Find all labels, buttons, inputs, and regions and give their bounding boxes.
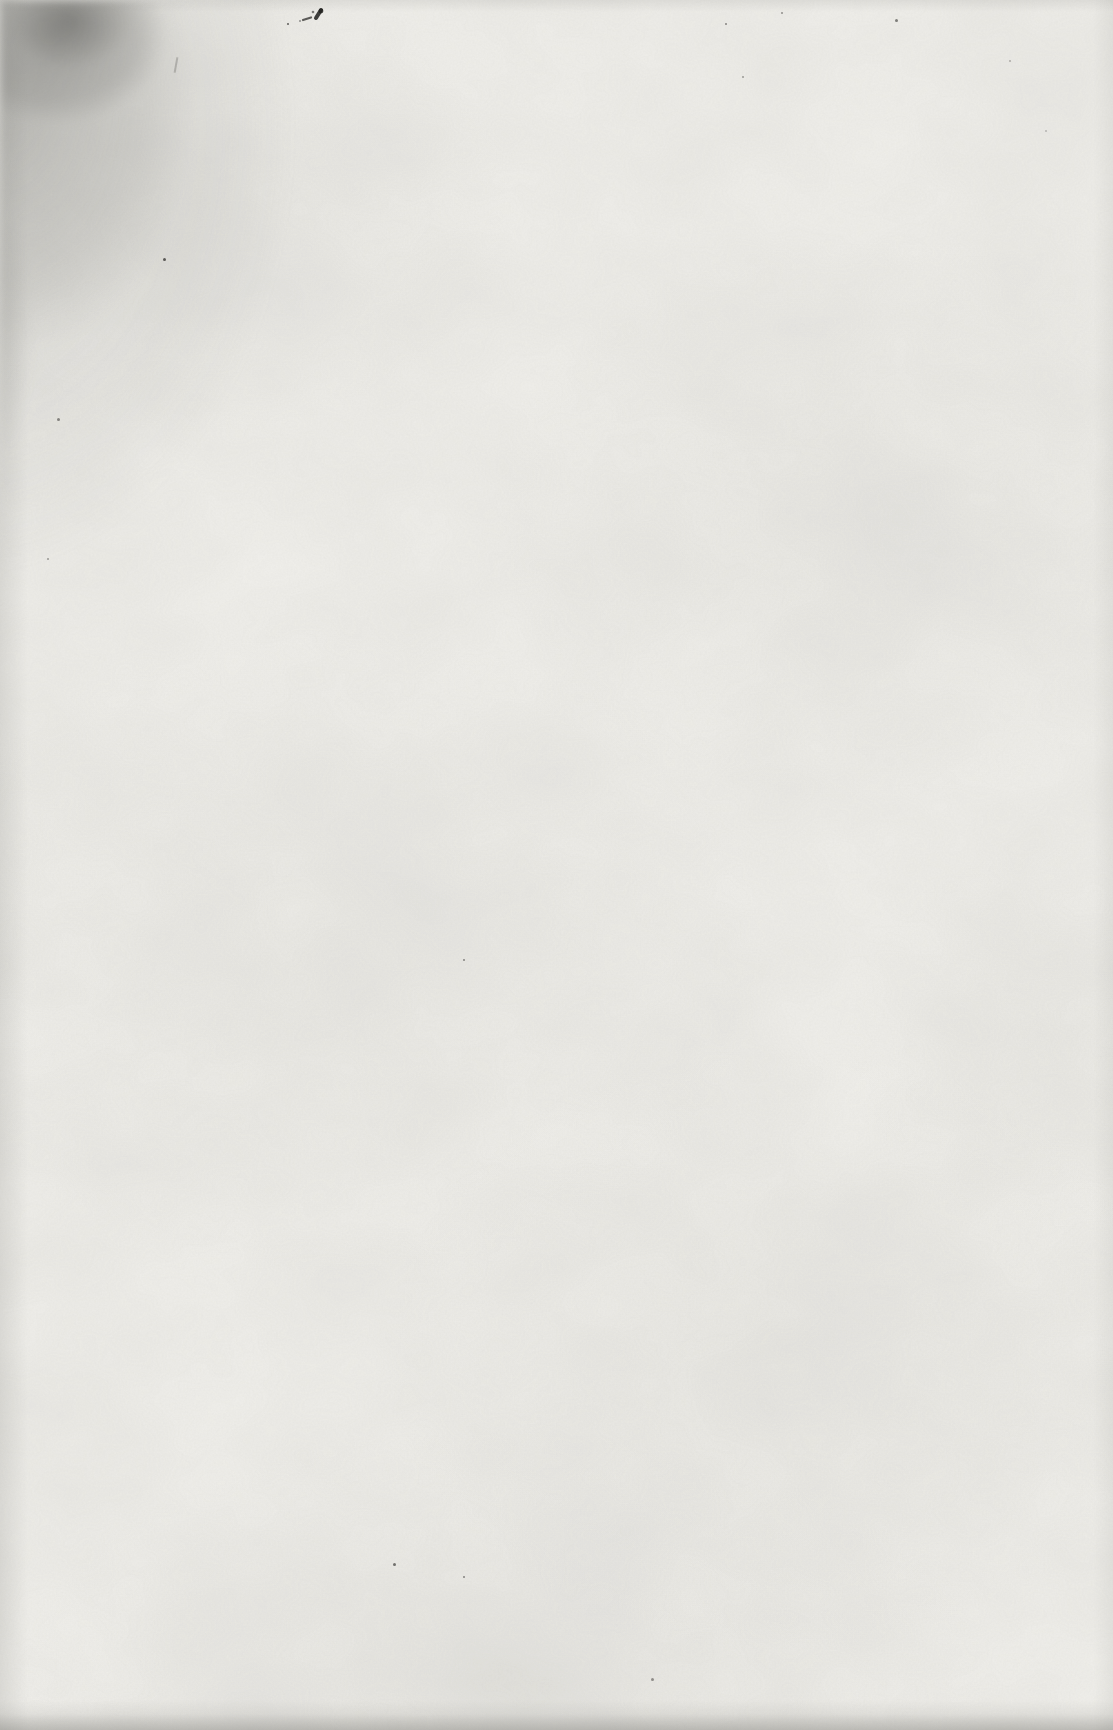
- page-edge-shadow-right: [1093, 0, 1113, 1730]
- page-edge-shadow-left: [0, 0, 28, 1730]
- corner-smudge-stain: [0, 0, 520, 660]
- scanned-blank-page: [0, 0, 1113, 1730]
- paper-grain-texture: [0, 0, 1113, 1730]
- speck-mark: [1045, 130, 1047, 132]
- page-edge-shadow-top: [0, 0, 1113, 12]
- pencil-stroke-mark: [174, 57, 179, 73]
- speck-mark: [163, 258, 166, 261]
- speck-mark: [651, 1678, 654, 1681]
- speck-mark: [725, 23, 727, 25]
- speck-mark: [895, 19, 898, 22]
- speck-mark: [742, 76, 744, 78]
- speck-mark: [393, 1563, 396, 1566]
- speck-mark: [781, 12, 783, 14]
- speck-mark: [463, 959, 465, 961]
- page-edge-shadow-bottom: [0, 1700, 1113, 1730]
- speck-mark: [287, 23, 289, 25]
- speck-mark: [47, 558, 49, 560]
- speck-mark: [1009, 60, 1011, 62]
- speck-mark: [57, 418, 60, 421]
- speck-mark: [463, 1576, 465, 1578]
- ink-spatter-mark: [275, 2, 345, 42]
